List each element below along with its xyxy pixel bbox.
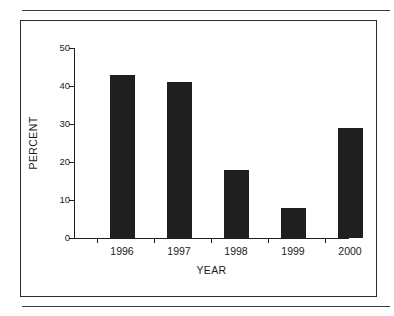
- x-tick-mark-3: [211, 238, 212, 243]
- y-axis-title-label: PERCENT: [27, 117, 39, 170]
- x-tick-label-1999: 1999: [281, 246, 304, 257]
- x-tick-mark-4: [268, 238, 269, 243]
- x-tick-label-1996: 1996: [110, 246, 133, 257]
- x-tick-mark-1: [97, 238, 98, 243]
- x-tick-label-1998: 1998: [224, 246, 247, 257]
- plot-area: 0 10 20 30 40 50: [74, 48, 349, 238]
- x-tick-label-1997: 1997: [167, 246, 190, 257]
- bars-layer: [74, 48, 349, 238]
- y-tick-label-30: 30: [59, 119, 70, 129]
- top-horizontal-rule: [22, 10, 390, 11]
- y-axis-title: PERCENT: [26, 48, 40, 238]
- bar-1998: [224, 170, 249, 238]
- y-tick-label-10: 10: [59, 195, 70, 205]
- figure-frame: PERCENT 0 10 20 30: [20, 20, 377, 297]
- x-tick-label-2000: 2000: [338, 246, 361, 257]
- y-tick-label-40: 40: [59, 81, 70, 91]
- bottom-horizontal-rule: [22, 306, 390, 307]
- bar-1997: [167, 82, 192, 238]
- y-tick-label-20: 20: [59, 157, 70, 167]
- bar-1999: [281, 208, 306, 238]
- bar-2000: [338, 128, 363, 238]
- y-tick-label-50: 50: [59, 43, 70, 53]
- bar-1996: [110, 75, 135, 238]
- figure-page: PERCENT 0 10 20 30: [0, 0, 394, 316]
- x-axis-title: YEAR: [74, 264, 349, 276]
- x-tick-mark-2: [154, 238, 155, 243]
- y-tick-label-0: 0: [65, 233, 70, 243]
- x-tick-mark-5: [325, 238, 326, 243]
